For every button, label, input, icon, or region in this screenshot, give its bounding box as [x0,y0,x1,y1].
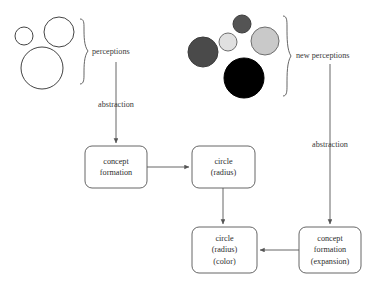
perceptions-circles [15,17,74,89]
dark-gray-top-circle [233,15,251,33]
medium-outline-circle [44,17,74,47]
black-circle [224,58,264,98]
box-line: formation [100,167,132,178]
diagram-canvas: perceptions new perceptions abstraction … [0,0,374,287]
large-outline-circle [21,47,63,89]
light-gray-large-circle [251,27,279,55]
perceptions-label: perceptions [92,47,130,57]
circle-radius-color-box-label: circle (radius) (color) [212,233,237,267]
abstraction-label-left: abstraction [98,100,134,110]
new-perceptions-brace-icon [283,16,291,96]
box-line: (color) [212,256,237,267]
box-line: formation [311,244,350,255]
new-perceptions-label: new perceptions [296,51,349,61]
concept-formation-expansion-box-label: concept formation (expansion) [311,233,350,267]
small-outline-circle [15,27,33,45]
box-line: (expansion) [311,256,350,267]
circle-radius-box-label: circle (radius) [211,156,236,179]
box-line: concept [100,156,132,167]
box-line: circle [212,233,237,244]
box-line: concept [311,233,350,244]
box-line: (radius) [211,167,236,178]
new-perceptions-circles [188,15,279,98]
abstraction-label-right: abstraction [312,140,348,150]
concept-formation-box-label: concept formation [100,156,132,179]
light-gray-small-circle [219,33,237,51]
dark-gray-left-circle [188,37,218,67]
box-line: circle [211,156,236,167]
box-line: (radius) [212,244,237,255]
perceptions-brace-icon [80,19,88,84]
